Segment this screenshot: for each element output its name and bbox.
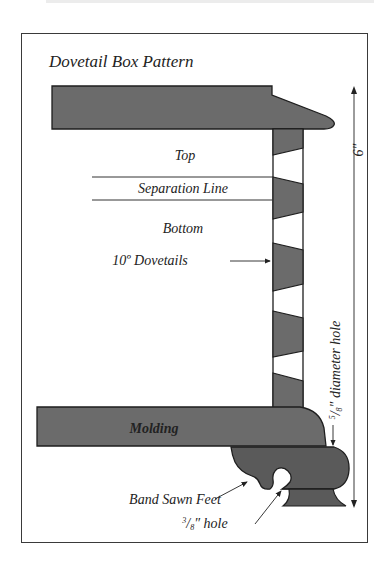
dimension-arrow-top-icon bbox=[351, 86, 357, 94]
label-molding: Molding bbox=[128, 421, 178, 436]
molding-board bbox=[37, 407, 326, 446]
diameter-hole-text: ″ diameter hole bbox=[328, 321, 343, 408]
dovetail-pin bbox=[273, 243, 303, 291]
dimension-arrow-bottom-icon bbox=[351, 500, 357, 508]
label-bottom: Bottom bbox=[163, 221, 203, 236]
diagram-title: Dovetail Box Pattern bbox=[48, 52, 193, 71]
small-hole-arrow bbox=[255, 491, 281, 524]
label-diameter-hole-group: 5/8″ diameter hole bbox=[328, 321, 344, 420]
hole-small-text: ″ hole bbox=[194, 516, 227, 531]
dovetail-box-diagram: Dovetail Box Pattern Top Separation Line… bbox=[0, 0, 386, 570]
dovetail-pin bbox=[273, 177, 303, 219]
foot-base bbox=[283, 489, 346, 506]
height-dimension-label-group: 6″ bbox=[351, 143, 366, 156]
height-dimension-label: 6″ bbox=[351, 143, 366, 156]
lid-board bbox=[52, 86, 334, 129]
band-sawn-foot bbox=[231, 447, 349, 489]
label-separation-line: Separation Line bbox=[138, 181, 228, 196]
label-small-hole: 3/8″ hole bbox=[181, 516, 227, 532]
label-band-sawn-feet: Band Sawn Feet bbox=[129, 492, 222, 507]
label-dovetails: 10º Dovetails bbox=[112, 253, 188, 268]
dovetail-pin bbox=[273, 311, 303, 357]
feet-arrow bbox=[215, 482, 247, 499]
label-diameter-hole: 5/8″ diameter hole bbox=[328, 321, 344, 420]
label-top: Top bbox=[175, 148, 196, 163]
